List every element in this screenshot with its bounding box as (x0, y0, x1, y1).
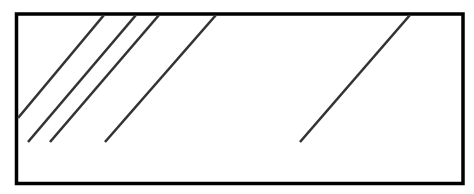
diagram-canvas (0, 0, 474, 194)
diagonal-line-3 (50, 15, 159, 142)
diagonal-line-4 (105, 15, 216, 142)
diagonal-line-5 (300, 15, 410, 142)
diagonal-line-2 (28, 15, 136, 142)
